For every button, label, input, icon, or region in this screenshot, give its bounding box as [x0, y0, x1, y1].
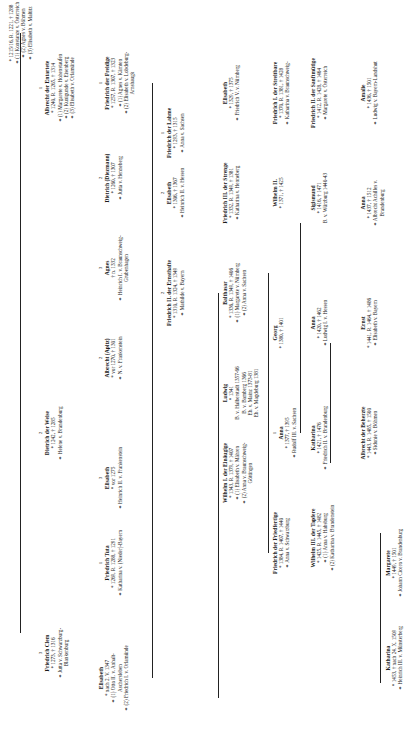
person-node: Wilhelm I. der Einäugige * 1343, R. 1379…	[222, 442, 253, 503]
person-node: Friedrich der Friedfertige * 1384, R. 14…	[272, 512, 291, 574]
person-node: Balthasar * 1336, R. 1349, † 1406 ⚭ (1) …	[222, 263, 247, 323]
connector-gen7	[330, 343, 331, 463]
person-node: Margarete * 1449, † 1501 ⚭ Johann Cicero…	[385, 529, 404, 597]
person-node: 3 Agnes † n. 1332 ⚭ Heinrich I. v. Braun…	[98, 235, 129, 300]
person-node: Ernst * 1441, R. 1464, † 1486 ⚭ Elisabet…	[360, 298, 379, 348]
person-node: * 1215/16, R. 1221, † 1288 ⚭ (1) Konstan…	[8, 2, 33, 64]
person-node: 2 Dietrich (Diezmann) * 1260, † 1307 ⚭ J…	[98, 154, 123, 203]
person-node: Albrecht der Beherzte * 1443, R. 1485, †…	[360, 407, 379, 460]
person-node: 2 Dietrich der Weise * 1242, † 1285 ⚭ He…	[38, 406, 63, 459]
connector-gen2	[152, 83, 153, 678]
person-node: Friedrich III. der Strenge * 1332, R. 13…	[222, 162, 241, 223]
person-node: 2 Elisabeth * 1306, † 1367 ⚭ Heinrich II…	[160, 168, 185, 219]
person-node: Friedrich II. der Sanftmütige * 1412, R.…	[310, 58, 329, 128]
person-node: 1 Friedrich Tuta * 1269, R. 1288, † 1291…	[98, 530, 123, 596]
person-node: 1 Friedrich der Freidige * 1257, R. 1307…	[98, 52, 135, 115]
person-node: Georg * 1380, † 1401	[272, 317, 284, 348]
person-node: 1 Albrecht der Entartete * 1240, R. 1265…	[38, 54, 75, 123]
person-node: Wilhelm III. der Tapfere * 1425, R. 1445…	[310, 505, 335, 572]
person-node: Elisabeth * 1329, † 1375 ⚭ Friedrich V. …	[222, 65, 241, 121]
person-node: Ludwig * 1341 B. v. Halberstadt 1357-66 …	[222, 366, 259, 419]
person-node: Wilhelm II. * 1371, † 1425	[272, 177, 284, 208]
person-node: Anna * 1420, † 1462 ⚭ Ludwig I. v. Hesse…	[310, 300, 329, 347]
person-node: 3 Friedrich Clem * 1273, † 1316 ⚭ Jutta …	[38, 628, 69, 678]
person-node: 2 Albrecht (Apitz) * vor 1270, † 1301 ⚭ …	[98, 336, 123, 379]
connector-gen4	[218, 398, 219, 518]
connector-gen6	[300, 223, 301, 433]
connector-gen5	[268, 273, 269, 553]
person-node: 1 Anna * 1377, † 1395 ⚭ Rudolf III. v. S…	[272, 408, 297, 459]
person-node: Sigismund * 1416, † 1471 B. v. Würzburg …	[310, 173, 329, 223]
person-node: 2 Friedrich II. der Ernsthafte * 1310, R…	[160, 260, 185, 326]
person-node: Anna * 1437, † 1512 ⚭ Albrecht Achilles …	[360, 180, 385, 226]
person-node: Elisabeth * nach 2. V. 1347 ⚭ (1) Otto I…	[98, 645, 129, 710]
connector-gen1	[20, 33, 21, 633]
person-node: 1 Friedrich der Lahme * 1293, † 1315 ⚭ A…	[160, 108, 185, 158]
person-node: Katharina * 1421, † 1476 ⚭ Friedrich II.…	[310, 406, 329, 470]
person-node: Friedrich I. der Streitbare * 1370, R. 1…	[272, 61, 291, 124]
person-node: 3 Elisabeth * vor 1275 ⚭ Heinrich II. v.…	[98, 447, 123, 509]
person-node: Amalie * 1436, † 1501 ⚭ Ludwig v. Bayern…	[360, 61, 379, 125]
connector-gen8	[380, 533, 381, 683]
person-node: Katharina * 1453, † nach 24. X. 1509 ⚭ H…	[385, 626, 404, 690]
genealogy-chart: * 1215/16, R. 1221, † 1288 ⚭ (1) Konstan…	[0, 0, 415, 733]
